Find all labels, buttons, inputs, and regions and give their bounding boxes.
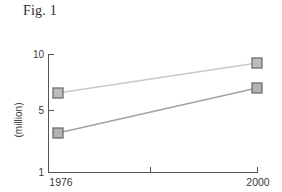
figure-container: Fig. 1 10 5 1 1976 2000 (million): [0, 0, 282, 192]
line-chart: 10 5 1 1976 2000 (million): [0, 0, 282, 192]
y-tick-label-5: 5: [38, 105, 44, 116]
x-tick-label-1976: 1976: [49, 176, 73, 188]
y-tick-label-1: 1: [38, 167, 44, 178]
data-point-lower-2000: [252, 83, 262, 93]
data-point-upper-2000: [252, 58, 262, 68]
series-line-upper: [58, 63, 257, 93]
x-tick-label-2000: 2000: [246, 176, 270, 188]
y-tick-label-10: 10: [33, 49, 45, 60]
data-point-lower-1976: [53, 128, 63, 138]
y-axis-title: (million): [13, 103, 24, 138]
data-point-upper-1976: [53, 88, 63, 98]
series-line-lower: [58, 88, 257, 133]
